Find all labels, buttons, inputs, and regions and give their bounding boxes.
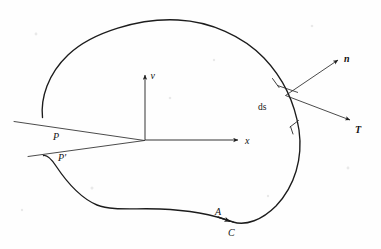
ds-tick-upper xyxy=(273,79,280,88)
normal-vector-arrow xyxy=(286,60,339,96)
slit-upper-edge xyxy=(14,122,145,141)
point-p-prime-label: P' xyxy=(57,152,67,163)
boundary-curve-C-lower xyxy=(44,155,234,222)
boundary-curve-C-upper xyxy=(42,20,300,223)
slit-lower-edge xyxy=(28,141,145,157)
point-p-label: P xyxy=(52,131,59,142)
region-area-label: A xyxy=(214,206,222,217)
ds-tick-lower-stem xyxy=(291,127,294,135)
contour-direction-arrow xyxy=(218,217,230,221)
x-axis-label: x xyxy=(244,135,250,146)
figure-canvas: v x n T ds A C P P' xyxy=(0,0,381,249)
normal-vector-label: n xyxy=(344,53,350,64)
diagram-svg: v x n T ds A C P P' xyxy=(0,0,381,249)
y-axis-label: v xyxy=(151,70,156,81)
tangent-vector-arrow xyxy=(286,96,351,121)
contour-label: C xyxy=(228,227,235,238)
tangent-vector-label: T xyxy=(355,124,362,135)
arc-element-label: ds xyxy=(258,102,267,112)
